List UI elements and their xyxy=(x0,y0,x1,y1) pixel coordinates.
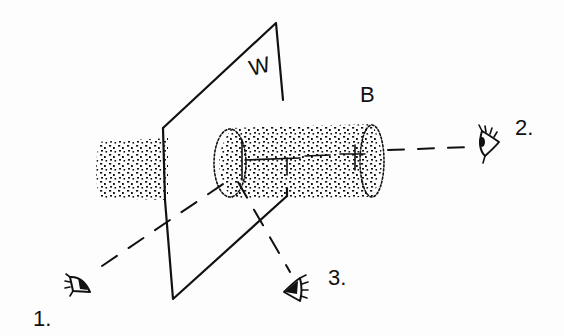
viewer-1-label: 1. xyxy=(33,306,51,331)
eye-2-icon xyxy=(479,125,499,163)
viewer-3-label: 3. xyxy=(328,265,346,290)
eye-1-icon xyxy=(65,274,90,296)
diagram-svg: W B 1. 2. 3. xyxy=(0,0,564,336)
sight-line-2 xyxy=(388,147,470,150)
bar-cylinder xyxy=(214,124,384,199)
viewer-2-label: 2. xyxy=(515,115,533,140)
diagram-canvas: W B 1. 2. 3. xyxy=(0,0,564,336)
bar-left-stub xyxy=(91,138,168,200)
bar-label: B xyxy=(360,82,375,107)
eye-3-icon xyxy=(284,275,308,301)
wall-label: W xyxy=(246,51,272,80)
